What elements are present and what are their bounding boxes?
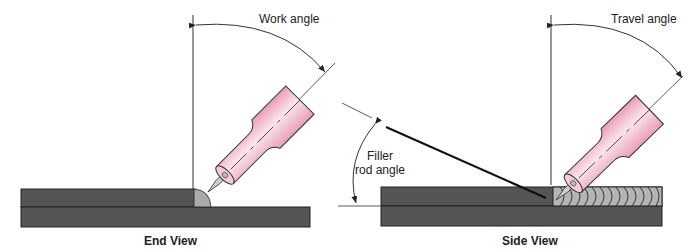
filler-rod-extension [342,103,372,118]
travel-angle-label: Travel angle [611,12,677,26]
filler-rod-angle-label-line2: rod angle [355,163,405,177]
tig-torch [194,86,314,206]
side-view-caption: Side View [502,234,558,248]
end-view: Work angle End View [21,12,335,248]
side-view: Travel angle Filler rod angle Side View [338,12,683,248]
travel-angle-arc [554,24,682,78]
welding-angles-diagram: Work angle End View Travel angle [0,0,699,252]
bottom-plate [21,207,310,227]
work-angle-arc [196,24,325,72]
top-plate [21,189,195,207]
work-angle-label: Work angle [259,12,320,26]
filler-rod-angle-label-line1: Filler [367,149,393,163]
bottom-plate [381,206,662,226]
end-view-caption: End View [144,234,198,248]
